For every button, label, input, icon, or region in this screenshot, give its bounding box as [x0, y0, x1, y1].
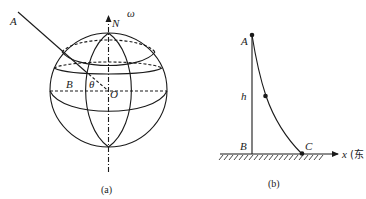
mid-trajectory-dot	[263, 94, 268, 99]
label-a-point-A: A	[9, 15, 17, 27]
meridian-left	[86, 33, 109, 147]
label-b-point-B: B	[240, 140, 247, 152]
point-C-dot	[300, 151, 305, 156]
label-omega: ω	[127, 7, 135, 19]
label-point-C: C	[305, 140, 313, 152]
figure-a-earth-sphere	[18, 12, 167, 172]
label-b-point-A: A	[240, 35, 248, 47]
label-x-axis-east: (东	[350, 148, 364, 160]
point-A-dot	[250, 33, 255, 38]
ground-hatching	[219, 155, 323, 160]
line-A-to-B	[18, 12, 85, 71]
label-center-O: O	[110, 88, 118, 100]
label-x-axis: x	[341, 148, 347, 160]
label-height-h: h	[241, 90, 247, 102]
figure-b-trajectory	[219, 35, 338, 160]
trajectory-curve	[252, 35, 302, 154]
diagram-canvas: A N ω B θ O (a)	[0, 0, 366, 199]
label-a-point-B: B	[66, 78, 73, 90]
label-theta: θ	[89, 78, 95, 90]
label-north-N: N	[111, 17, 120, 29]
caption-a: (a)	[101, 184, 112, 196]
caption-b: (b)	[268, 178, 280, 190]
